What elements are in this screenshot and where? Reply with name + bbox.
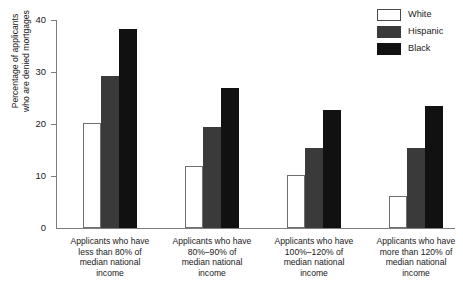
bar-chart: 40 30 20 10 0 Percentage of applicants w…	[0, 0, 463, 303]
x-group-label-2-line1: Applicants who have	[158, 236, 266, 247]
x-group-label-2-line2: 80%–90% of	[158, 247, 266, 258]
x-group-label-4: Applicants who have more than 120% of me…	[362, 236, 463, 278]
y-axis-title-line1: Percentage of applicants	[10, 0, 21, 126]
x-group-label-4-line2: more than 120% of	[362, 247, 463, 258]
legend-label-white: White	[408, 10, 432, 19]
x-group-label-1-line3: median national	[56, 257, 164, 268]
x-group-label-2: Applicants who have 80%–90% of median na…	[158, 236, 266, 278]
x-group-label-3-line2: 100%–120% of	[260, 247, 368, 258]
legend-label-black: Black	[408, 44, 430, 53]
bar-group2-hispanic	[203, 127, 221, 228]
x-group-label-1: Applicants who have less than 80% of med…	[56, 236, 164, 278]
bar-group4-hispanic	[407, 148, 425, 228]
x-group-label-4-line1: Applicants who have	[362, 236, 463, 247]
x-group-label-3-line3: median national	[260, 257, 368, 268]
x-axis-line	[56, 228, 455, 229]
bar-group3-hispanic	[305, 148, 323, 228]
y-axis-title: Percentage of applicants who are denied …	[10, 0, 32, 126]
y-tick-label-30: 30	[35, 67, 46, 77]
legend: White Hispanic Black	[377, 9, 443, 55]
y-tick-label-10: 10	[35, 171, 46, 181]
x-group-label-1-line4: income	[56, 268, 164, 279]
x-group-label-2-line3: median national	[158, 257, 266, 268]
legend-item-hispanic: Hispanic	[377, 26, 443, 38]
y-tick-label-40: 40	[35, 15, 46, 25]
bar-group2-white	[185, 166, 203, 228]
x-group-label-3-line4: income	[260, 268, 368, 279]
bar-group3-black	[323, 110, 341, 228]
x-group-label-4-line3: median national	[362, 257, 463, 268]
legend-swatch-hispanic-icon	[377, 26, 401, 38]
bar-group2-black	[221, 88, 239, 228]
x-group-label-1-line2: less than 80% of	[56, 247, 164, 258]
legend-label-hispanic: Hispanic	[408, 27, 443, 36]
y-axis-title-line2: who are denied mortgages	[21, 0, 32, 126]
x-group-label-3: Applicants who have 100%–120% of median …	[260, 236, 368, 278]
legend-item-black: Black	[377, 43, 443, 55]
bar-group4-white	[389, 196, 407, 228]
x-group-label-1-line1: Applicants who have	[56, 236, 164, 247]
x-group-label-3-line1: Applicants who have	[260, 236, 368, 247]
bar-group3-white	[287, 175, 305, 228]
bar-group1-hispanic	[101, 76, 119, 228]
legend-swatch-white-icon	[377, 9, 401, 21]
y-tick-label-0: 0	[41, 223, 46, 233]
y-tick-label-20: 20	[35, 119, 46, 129]
x-group-label-4-line4: income	[362, 268, 463, 279]
bar-group1-black	[119, 29, 137, 228]
x-group-label-2-line4: income	[158, 268, 266, 279]
legend-item-white: White	[377, 9, 443, 21]
bar-group1-white	[83, 123, 101, 228]
legend-swatch-black-icon	[377, 43, 401, 55]
bar-group4-black	[425, 106, 443, 228]
